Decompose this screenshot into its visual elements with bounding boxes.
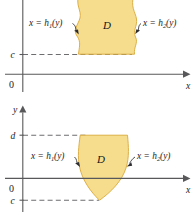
bottom-right-curve-label-tail: (y) <box>160 151 170 162</box>
type-II-region-figure: c 0 x D x = h1(y) x = h2(y) <box>0 0 196 212</box>
bottom-x-axis-label: x <box>185 184 191 195</box>
bottom-right-leader-line <box>130 157 136 164</box>
top-left-curve-label-main: x = h <box>28 18 49 28</box>
top-left-curve-label-tail: (y) <box>52 18 62 29</box>
top-right-leader-arrow <box>135 29 140 34</box>
bottom-region-label: D <box>96 153 105 165</box>
bottom-origin-label: 0 <box>9 183 14 194</box>
top-x-axis-arrow <box>183 71 191 78</box>
bottom-right-curve-label-main: x = h <box>136 151 157 161</box>
bottom-x-axis-arrow <box>183 175 191 182</box>
bottom-y-axis-arrow <box>19 106 26 113</box>
top-x-axis-label: x <box>185 80 191 91</box>
top-panel: c 0 x D x = h1(y) x = h2(y) <box>5 0 191 92</box>
top-tick-label-c: c <box>11 49 16 60</box>
top-right-curve-label: x = h2(y) <box>142 18 176 29</box>
bottom-left-curve-label: x = h1(y) <box>30 151 64 162</box>
bottom-panel: y d 0 c x D x = h1(y) x = h2(y) <box>5 104 191 212</box>
figure-root: c 0 x D x = h1(y) x = h2(y) <box>0 0 196 212</box>
bottom-right-curve-label: x = h2(y) <box>136 151 170 162</box>
bottom-left-curve-label-tail: (y) <box>54 151 64 162</box>
top-left-curve-label: x = h1(y) <box>28 18 62 29</box>
top-right-leader-line <box>138 24 141 32</box>
bottom-y-axis-label: y <box>12 104 18 115</box>
bottom-tick-label-d: d <box>11 130 16 141</box>
top-origin-label: 0 <box>9 79 14 90</box>
bottom-left-curve-label-main: x = h <box>30 151 51 161</box>
bottom-tick-label-c: c <box>11 195 16 206</box>
bottom-region-D <box>78 135 128 200</box>
top-region-label: D <box>102 19 111 31</box>
top-right-curve-label-tail: (y) <box>166 18 176 29</box>
top-right-curve-label-main: x = h <box>142 18 163 28</box>
